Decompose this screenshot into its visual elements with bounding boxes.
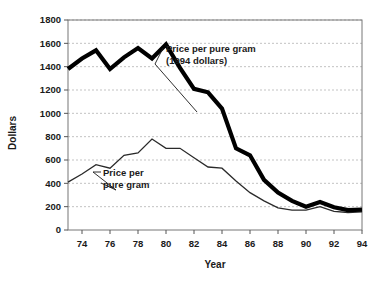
line-chart: 020040060080010001200140016001800 747678… (0, 0, 388, 284)
y-tick-label: 1400 (40, 61, 61, 72)
y-tick-label: 800 (45, 131, 61, 142)
x-tick-label: 74 (77, 238, 88, 249)
x-tick-label: 78 (133, 238, 144, 249)
x-tick-label: 90 (301, 238, 312, 249)
x-tick-label: 80 (161, 238, 172, 249)
x-tick-label: 84 (217, 238, 228, 249)
y-tick-label: 200 (45, 201, 61, 212)
x-tick-label: 76 (105, 238, 116, 249)
y-tick-label: 0 (56, 224, 61, 235)
y-tick-label: 1600 (40, 38, 61, 49)
y-tick-label: 1800 (40, 14, 61, 25)
annotation-real-line2: (1994 dollars) (166, 55, 227, 66)
annotation-nominal-line1: Price per (103, 167, 144, 178)
y-tick-label: 400 (45, 178, 61, 189)
annotation-real-line1: Price per pure gram (166, 43, 256, 54)
annotation-nominal-line2: pure gram (103, 179, 149, 190)
x-axis-title: Year (204, 259, 225, 270)
y-tick-label: 1200 (40, 84, 61, 95)
x-tick-label: 82 (189, 238, 200, 249)
x-tick-label: 92 (329, 238, 340, 249)
y-tick-label: 1000 (40, 108, 61, 119)
chart-container: 020040060080010001200140016001800 747678… (0, 0, 388, 284)
y-axis-title: Dollars (7, 116, 18, 150)
x-tick-label: 86 (245, 238, 256, 249)
x-tick-label: 94 (357, 238, 368, 249)
x-tick-label: 88 (273, 238, 284, 249)
y-tick-label: 600 (45, 154, 61, 165)
